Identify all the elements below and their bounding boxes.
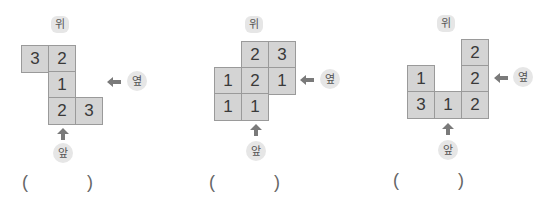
problem-3: 위 2 1 2 3 1 2 옆 앞 ( ) xyxy=(0,0,548,204)
answer-open-paren: ( xyxy=(393,170,399,191)
cell: 2 xyxy=(461,65,489,93)
answer-close-paren: ) xyxy=(458,170,464,191)
cell: 1 xyxy=(407,65,435,93)
cell: 2 xyxy=(461,91,489,119)
cell: 2 xyxy=(461,39,489,67)
cell: 3 xyxy=(407,91,435,119)
cell: 1 xyxy=(434,91,462,119)
side-label: 옆 xyxy=(513,67,533,87)
top-label: 위 xyxy=(437,15,455,32)
arrow-left-icon xyxy=(494,73,508,83)
arrow-up-icon xyxy=(442,123,454,135)
front-label: 앞 xyxy=(438,140,458,160)
